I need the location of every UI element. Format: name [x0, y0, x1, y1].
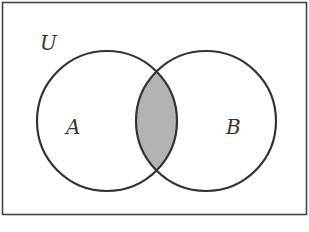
set-a-label: A	[64, 115, 80, 139]
venn-diagram: U A B	[0, 0, 309, 232]
set-b-label: B	[225, 115, 241, 139]
universe-label: U	[40, 31, 58, 55]
